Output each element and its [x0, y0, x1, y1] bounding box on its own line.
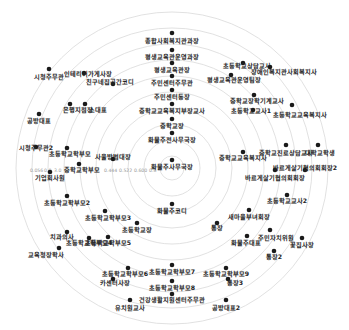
node-label: 평생교육관운영과장	[145, 53, 199, 61]
node-dot-icon	[247, 208, 252, 213]
node-label: 시청주무관	[34, 73, 64, 81]
node-label: 바르게살기협의회회장2	[273, 164, 337, 172]
node-label: 화물주대표	[231, 239, 261, 247]
node-label: 바르게살기협의회회장	[245, 174, 305, 182]
node-label: 중학교교육복지부장교사	[139, 107, 205, 115]
node-label: 공방대표	[27, 117, 51, 125]
node-dot-icon	[170, 202, 175, 207]
network-node: 초등학교학부모6	[102, 266, 148, 278]
node-label: 시청주무관2	[19, 144, 53, 152]
network-node: 통장3	[226, 277, 243, 287]
node-dot-icon	[83, 102, 88, 107]
node-label: 화물주전사무국장	[148, 136, 196, 144]
node-label: 카센터사장	[100, 279, 130, 287]
node-dot-icon	[65, 194, 70, 199]
node-dot-icon	[284, 143, 289, 148]
network-node: 초등학교학부모7	[149, 263, 195, 276]
node-dot-icon	[170, 74, 175, 79]
network-node: 새마을부녀회장	[228, 208, 270, 221]
node-dot-icon	[170, 48, 175, 53]
node-label: 초등학교학부모	[49, 150, 91, 158]
node-label: 건강생활지원센터주무관	[139, 296, 205, 304]
network-node: 초등학교학부모8	[149, 279, 195, 292]
node-dot-icon	[170, 279, 175, 284]
network-node: 공방대표2	[212, 298, 240, 312]
network-node: 교육청장학사	[28, 246, 64, 259]
tick-label: 0.056	[30, 168, 43, 173]
node-dot-icon	[135, 221, 140, 226]
node-dot-icon	[170, 88, 175, 93]
node-label: 평생교육관장	[154, 66, 190, 74]
node-label: 초등학교교육복지사	[273, 111, 327, 119]
node-label: 평생교육관운영팀장	[207, 76, 261, 84]
node-label: 화물주사무국장	[151, 163, 193, 171]
node-label: 소대표	[89, 106, 107, 114]
node-label: 새마을부녀회장	[228, 213, 270, 221]
node-label: 통장	[211, 224, 223, 232]
network-node: 중학교장	[160, 117, 184, 130]
tick-label: 0.444	[104, 168, 117, 173]
node-dot-icon	[103, 209, 108, 214]
node-dot-icon	[170, 263, 175, 268]
node-label: 중학교학부모	[64, 166, 100, 174]
network-node: 평생교육관장	[154, 61, 190, 74]
node-dot-icon	[170, 131, 175, 136]
tick-label: 0.522	[119, 168, 132, 173]
network-node: 화물주전사무국장	[148, 131, 196, 144]
network-node: 초등학교학부모	[49, 146, 91, 158]
node-label: 중학교장학기계교사	[230, 97, 284, 105]
node-label: 초등학교교사1	[231, 107, 271, 115]
node-label: 초등학교학부모7	[149, 268, 195, 276]
tick-label: 0.600	[134, 168, 147, 173]
node-dot-icon	[57, 246, 62, 251]
node-dot-icon	[47, 67, 52, 72]
node-label: 교육청장학사	[28, 251, 64, 259]
network-node: 평생교육관운영과장	[145, 48, 199, 61]
node-label: 주민자치위원	[258, 234, 294, 242]
network-node: 통장2	[266, 249, 282, 261]
network-node: 종합사회복지관과장	[145, 31, 199, 45]
node-label: 기업회사원	[35, 174, 65, 182]
network-node: 주민센터주무관	[151, 74, 193, 87]
node-label: 대학교학생	[305, 149, 335, 157]
node-dot-icon	[268, 228, 273, 233]
network-node: 통장	[211, 221, 223, 232]
node-dot-icon	[245, 234, 250, 239]
node-label: 중학교장	[160, 122, 184, 130]
network-nodes: 종합사회복지관과장평생교육관운영과장평생교육관장주민센터주무관주민센터동장중학교…	[19, 31, 337, 312]
node-label: 주민센터주무관	[151, 79, 193, 87]
tick-label: 3.0	[54, 168, 61, 173]
network-node: 중학교장학기계교사	[230, 93, 284, 105]
node-label: 초등학교학부모8	[149, 284, 195, 292]
network-node: 초등학교학부모5	[85, 235, 131, 247]
node-label: 초등학교학부모5	[85, 239, 131, 247]
node-dot-icon	[316, 143, 321, 148]
node-label: 통장2	[266, 253, 282, 261]
network-node: 중학교교육복지부장교사	[139, 102, 205, 115]
node-label: 초등학교장	[122, 226, 152, 234]
network-node: 초등학교학부모9	[203, 266, 249, 278]
node-dot-icon	[290, 103, 295, 108]
node-label: 통장3	[227, 279, 243, 287]
network-node: 시청주무관2	[19, 144, 53, 152]
node-dot-icon	[170, 61, 175, 66]
node-label: 유치원교사	[115, 304, 145, 312]
node-label: 초등학교학부모9	[203, 270, 249, 278]
network-node: 인테리어가게사장	[64, 70, 112, 78]
node-label: 인테리어가게사장	[64, 70, 112, 78]
node-label: 초등학교학부모2	[44, 199, 90, 207]
network-node: 대학교학생	[305, 143, 335, 157]
network-node: 시청주무관	[34, 67, 64, 81]
network-node: 주민센터동장	[154, 88, 190, 101]
node-label: 꽃집사장	[290, 241, 314, 249]
node-dot-icon	[37, 112, 42, 117]
network-node: 주민자치위원	[258, 228, 294, 242]
network-node: 건강생활지원센터주무관	[139, 292, 205, 304]
network-node: 화물주사무국장	[151, 158, 193, 171]
node-label: 주민센터동장	[154, 93, 190, 101]
radial-network-diagram: 0.056 0.0 3.0 0.444 0.522 0.600 0.6 종합사회…	[0, 0, 349, 330]
network-node: 공방대표	[27, 112, 51, 125]
node-dot-icon	[128, 298, 133, 303]
node-dot-icon	[170, 102, 175, 107]
network-node: 초등학교학부모3	[85, 209, 131, 222]
